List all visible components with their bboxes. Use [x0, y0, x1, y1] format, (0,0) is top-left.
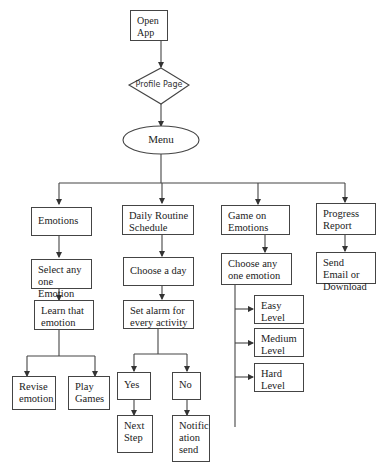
progress-report-box: Progress Report	[316, 203, 376, 235]
profile-page-label: Profile Page	[128, 80, 190, 89]
next-step-box: Next Step	[117, 415, 153, 453]
emotions-box: Emotions	[31, 207, 92, 236]
easy-level-box: Easy Level	[254, 295, 304, 324]
send-email-box: Send Email or Download	[316, 252, 376, 284]
flowchart-canvas: Open App Profile Page Menu Emotions Sele…	[0, 0, 391, 469]
yes-box: Yes	[117, 372, 151, 400]
learn-emotion-box: Learn that emotion	[34, 300, 94, 330]
play-games-box: Play Games	[68, 376, 110, 410]
set-alarm-box: Set alarm for every activity	[123, 300, 194, 329]
notification-send-box: Notific ation send	[172, 415, 210, 462]
choose-day-box: Choose a day	[123, 257, 194, 286]
game-emotions-box: Game on Emotions	[221, 205, 290, 235]
revise-emotion-box: Revise emotion	[12, 376, 56, 410]
choose-emotion-box: Choose any one emotion	[221, 253, 292, 285]
no-box: No	[172, 372, 201, 400]
hard-level-box: Hard Level	[254, 363, 304, 392]
open-app-box: Open App	[130, 10, 168, 41]
menu-label: Menu	[123, 133, 199, 145]
daily-routine-box: Daily Routine Schedule	[122, 205, 194, 235]
medium-level-box: Medium Level	[254, 328, 304, 357]
select-emotion-box: Select any one Emotion	[31, 259, 92, 289]
